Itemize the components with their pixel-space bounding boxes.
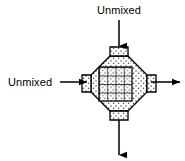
mixing-element-diagram: Unmixed Unmixed [0,0,185,161]
mixed-core [99,67,132,101]
left-tab [82,75,91,92]
bottom-tab [110,111,128,120]
right-tab [147,75,156,92]
left-inlet-label: Unmixed [8,76,52,88]
mixing-element [82,47,156,120]
top-inlet-label: Unmixed [97,4,141,16]
top-tab [110,47,128,56]
figure-container: Unmixed Unmixed [0,0,185,161]
